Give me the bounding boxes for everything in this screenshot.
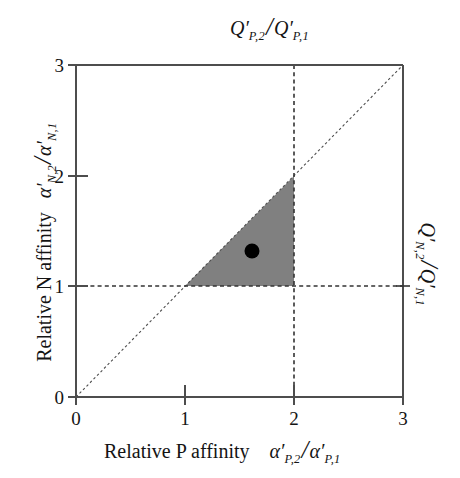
right-label-q-numerator: Q [417,222,439,236]
y-axis-subscript-denominator: N,1 [45,123,59,141]
y-axis-subscript-numerator: N,2 [45,165,59,183]
data-point-marker[interactable] [245,244,260,259]
right-label-q-denominator: Q [417,269,439,283]
figure-canvas: 0 1 2 3 0 1 2 3 Q′P,2/Q′P,1 Q′N,2/Q′N,1 … [0,0,460,478]
y-tick-label-3: 3 [46,56,64,75]
y-axis-alpha-denominator: α [33,145,55,156]
right-label-subscript-numerator: N,2 [413,241,427,259]
x-axis-slash: / [301,436,310,463]
y-axis-prime-denominator: ′ [33,141,55,145]
top-axis-label: Q′P,2/Q′P,1 [230,14,309,42]
y-axis-alpha-numerator: α [33,188,55,199]
x-tick-label-3: 3 [398,409,408,428]
right-label-subscript-denominator: N,1 [413,288,427,306]
x-axis-alpha-denominator: α [310,440,321,462]
top-label-slash: / [265,13,274,40]
y-axis-title-text: Relative N affinity [33,212,55,362]
x-tick-label-2: 2 [289,409,299,428]
y-axis-slash: / [29,156,56,165]
right-axis-label: Q′N,2/Q′N,1 [414,194,442,334]
x-axis-subscript-numerator: P,2 [284,452,300,466]
top-label-subscript-numerator: P,2 [249,29,265,43]
chart-plot-area [0,0,460,478]
x-axis-title: Relative P affinityα′P,2/α′P,1 [104,437,341,465]
x-tick-label-1: 1 [180,409,190,428]
y-axis-prime-numerator: ′ [33,183,55,187]
x-tick-label-0: 0 [71,409,81,428]
top-label-q-numerator: Q [230,17,244,39]
x-axis-subscript-denominator: P,1 [324,452,340,466]
top-label-q-denominator: Q [274,17,288,39]
y-axis-title: Relative N affinityα′N,2/α′N,1 [30,77,58,407]
top-label-subscript-denominator: P,1 [293,29,309,43]
x-axis-title-text: Relative P affinity [104,440,250,462]
x-axis-alpha-numerator: α [270,440,281,462]
